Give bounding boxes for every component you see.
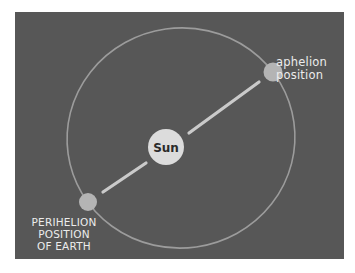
perihelion-label-line2: POSITION bbox=[30, 228, 98, 240]
axis-line-upper bbox=[189, 82, 259, 133]
earth-perihelion bbox=[79, 193, 97, 211]
aphelion-label-line2: position bbox=[276, 69, 327, 82]
sun-label: Sun bbox=[153, 141, 179, 155]
axis-line-lower bbox=[103, 163, 146, 192]
aphelion-label: aphelion position bbox=[276, 56, 327, 82]
perihelion-label-line1: PERIHELION bbox=[30, 216, 98, 228]
perihelion-label: PERIHELION POSITION OF EARTH bbox=[30, 216, 98, 252]
perihelion-label-line3: OF EARTH bbox=[30, 240, 98, 252]
